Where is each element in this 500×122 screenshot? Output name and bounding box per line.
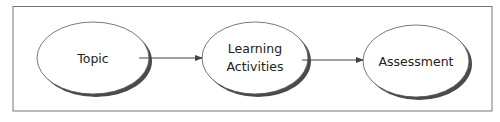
node-learning-activities-label-line2: Activities <box>226 59 283 74</box>
node-learning-activities-ellipse <box>202 22 308 94</box>
node-learning-activities-label-line1: Learning <box>228 41 282 56</box>
node-assessment-label: Assessment <box>379 54 454 69</box>
flow-diagram: Topic Learning Activities Assessment <box>0 0 500 122</box>
node-assessment: Assessment <box>363 25 472 100</box>
node-topic: Topic <box>37 22 152 97</box>
node-learning-activities: Learning Activities <box>202 22 311 97</box>
node-topic-label: Topic <box>76 51 109 66</box>
